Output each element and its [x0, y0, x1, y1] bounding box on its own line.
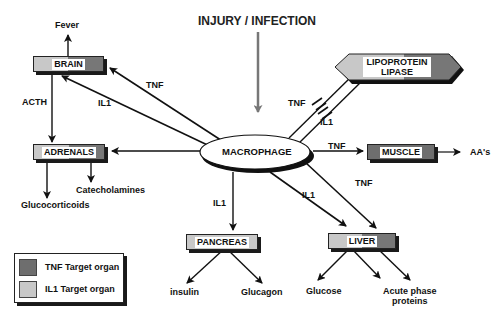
output-glucose: Glucose — [306, 286, 342, 296]
output-acute-phase-proteins: Acute phase proteins — [383, 286, 437, 306]
legend: TNF Target organ IL1 Target organ — [14, 253, 124, 303]
edge-label-brain-tnf: TNF — [146, 80, 164, 90]
edge-label-brain-il1: IL1 — [98, 98, 111, 108]
organ-adrenals: ADRENALS — [33, 144, 105, 160]
macrophage-label: MACROPHAGE — [222, 146, 292, 157]
edge-label-muscle-tnf: TNF — [328, 141, 346, 151]
organ-adrenals-label: ADRENALS — [42, 147, 96, 158]
edge-label-acth: ACTH — [22, 97, 47, 107]
organ-liver-label: LIVER — [347, 236, 378, 247]
edge-label-liver-il1: IL1 — [302, 190, 315, 200]
legend-label-tnf: TNF Target organ — [45, 262, 119, 272]
legend-swatch-tnf — [19, 259, 37, 276]
organ-pancreas: PANCREAS — [186, 234, 258, 250]
output-catecholamines: Catecholamines — [76, 185, 145, 195]
legend-label-il1: IL1 Target organ — [45, 284, 115, 294]
edge-label-pancreas-il1: IL1 — [213, 198, 226, 208]
output-glucocorticoids: Glucocorticoids — [21, 200, 90, 210]
edge-label-lipase-il1: IL1 — [320, 117, 333, 127]
organ-muscle-label: MUSCLE — [380, 147, 422, 158]
organ-brain: BRAIN — [33, 56, 104, 72]
organ-lipoprotein-lipase-label: LIPOPROTEIN LIPASE — [365, 57, 429, 77]
edge-label-lipase-tnf: TNF — [288, 98, 306, 108]
output-insulin: insulin — [170, 287, 199, 297]
title-injury-infection: INJURY / INFECTION — [198, 14, 316, 28]
organ-pancreas-label: PANCREAS — [195, 237, 249, 248]
output-glucagon: Glucagon — [241, 287, 283, 297]
organ-liver: LIVER — [328, 233, 396, 249]
organ-muscle: MUSCLE — [367, 144, 435, 160]
output-fever: Fever — [55, 20, 79, 30]
organ-brain-label: BRAIN — [52, 59, 85, 70]
output-aas: AA's — [470, 147, 490, 157]
edge-label-liver-tnf: TNF — [355, 178, 373, 188]
legend-swatch-il1 — [19, 281, 37, 298]
